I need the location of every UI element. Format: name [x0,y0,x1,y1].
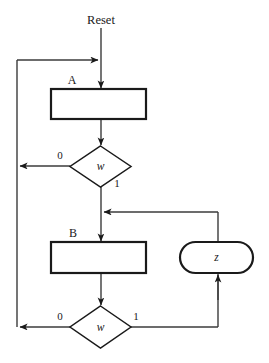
state-label-b: B [69,226,77,240]
flowchart-svg: Reset A B w w z 0 1 0 1 [0,0,269,363]
reset-label: Reset [87,13,115,27]
branch-label-d2-true: 1 [133,310,139,322]
branch-label-d2-false: 0 [57,310,63,322]
branch-label-d1-true: 1 [114,177,120,189]
branch-label-d1-false: 0 [57,149,63,161]
output-label-z: z [213,251,219,263]
state-box-a[interactable] [51,89,146,119]
state-label-a: A [68,73,77,87]
state-box-b[interactable] [51,242,146,273]
decision-label-1: w [97,160,105,172]
flowchart-canvas: Reset A B w w z 0 1 0 1 [0,0,269,363]
decision-label-2: w [97,321,105,333]
